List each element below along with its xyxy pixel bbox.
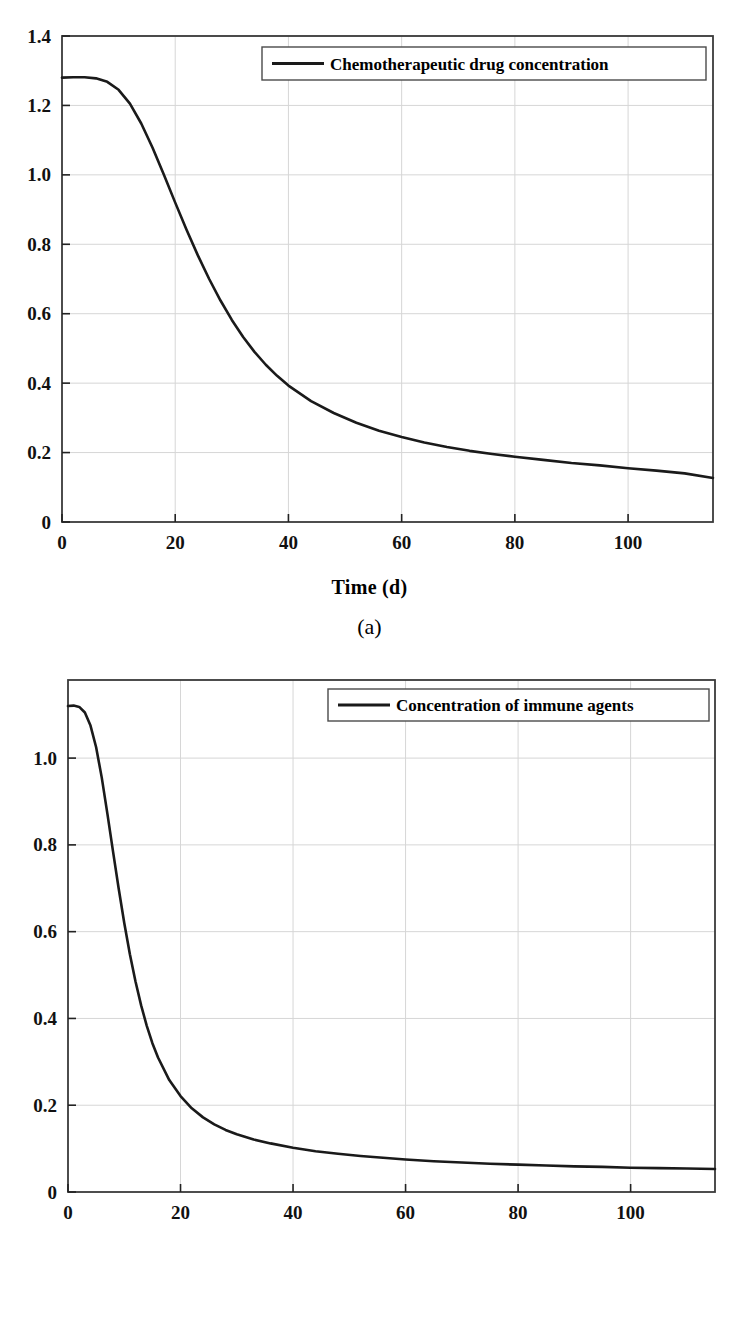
legend-label: Chemotherapeutic drug concentration [330,55,609,74]
plot-area-a: 00.20.40.60.81.01.21.4020406080100Chemot… [0,0,739,570]
plot-area-b: 00.20.40.60.81.0020406080100Concentratio… [0,660,739,1240]
x-axis-tick-label: 20 [171,1202,190,1223]
y-axis-tick-label: 0.4 [33,1008,57,1029]
x-axis-title-a: Time (d) [0,576,739,599]
y-axis-tick-label: 0 [48,1182,58,1203]
data-series-line [68,706,715,1169]
x-axis-tick-label: 40 [284,1202,303,1223]
figure-page: 00.20.40.60.81.01.21.4020406080100Chemot… [0,0,739,1342]
y-axis-tick-label: 0.2 [27,442,51,463]
x-axis-tick-label: 20 [166,532,185,553]
y-axis-tick-label: 1.4 [27,26,51,47]
x-axis-tick-label: 100 [614,532,643,553]
plot-frame [62,36,713,522]
y-axis-tick-label: 0.6 [33,921,57,942]
x-axis-tick-label: 0 [57,532,67,553]
x-axis-tick-label: 80 [505,532,524,553]
y-axis-tick-label: 0.8 [33,834,57,855]
y-axis-tick-label: 1.2 [27,95,51,116]
x-axis-tick-label: 40 [279,532,298,553]
x-axis-tick-label: 100 [616,1202,645,1223]
x-axis-tick-label: 0 [63,1202,73,1223]
line-chart-b: 00.20.40.60.81.0020406080100Concentratio… [0,660,739,1240]
legend-label: Concentration of immune agents [396,696,634,715]
panel-caption-a: (a) [0,614,739,640]
plot-frame [68,680,715,1192]
y-axis-tick-label: 1.0 [27,164,51,185]
y-axis-tick-label: 0.6 [27,303,51,324]
y-axis-tick-label: 0 [42,512,52,533]
chart-panel-a: 00.20.40.60.81.01.21.4020406080100Chemot… [0,0,739,660]
x-axis-tick-label: 80 [509,1202,528,1223]
x-axis-tick-label: 60 [392,532,411,553]
data-series-line [62,77,713,478]
y-axis-tick-label: 0.2 [33,1095,57,1116]
x-axis-tick-label: 60 [396,1202,415,1223]
y-axis-tick-label: 0.8 [27,234,51,255]
chart-panel-b: 00.20.40.60.81.0020406080100Concentratio… [0,660,739,1342]
y-axis-tick-label: 0.4 [27,373,51,394]
line-chart-a: 00.20.40.60.81.01.21.4020406080100Chemot… [0,0,739,570]
y-axis-tick-label: 1.0 [33,748,57,769]
